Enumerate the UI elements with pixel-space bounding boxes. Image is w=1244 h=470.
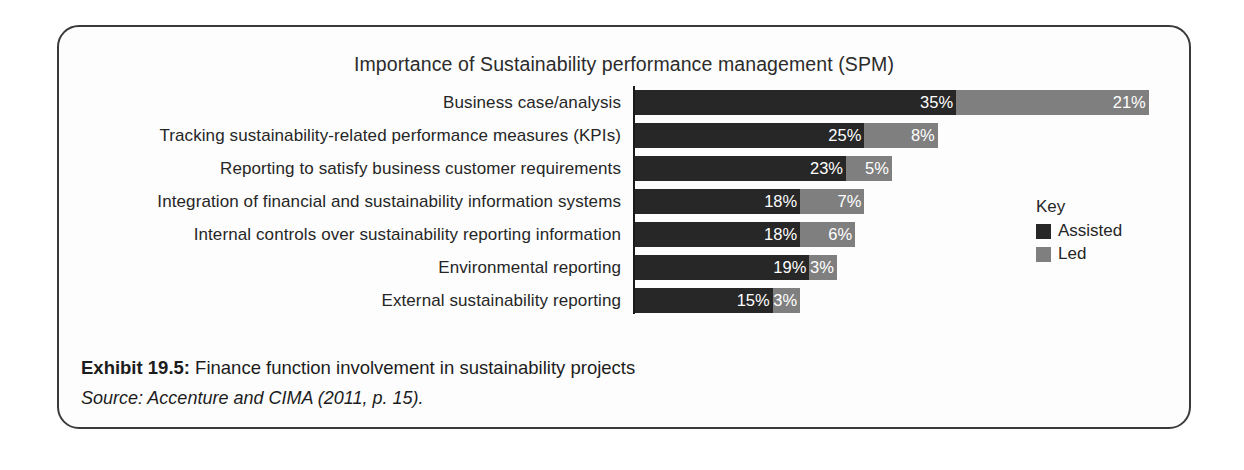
bar-value-label: 35% <box>920 93 956 112</box>
bar-value-label: 19% <box>773 258 809 277</box>
bar-value-label: 6% <box>828 225 855 244</box>
bar-segment-led: 3% <box>809 255 837 280</box>
stacked-bar: 25% 8% <box>635 123 938 148</box>
bar-segment-assisted: 18% <box>635 189 800 214</box>
bar-value-label: 18% <box>764 192 800 211</box>
bar-row: Tracking sustainability-related performa… <box>65 119 1185 152</box>
chart-legend: Key Assisted Led <box>1036 197 1186 264</box>
stacked-bar: 35% 21% <box>635 90 1149 115</box>
bar-row: Internal controls over sustainability re… <box>65 218 1185 251</box>
bar-row: Business case/analysis 35% 21% <box>65 86 1185 119</box>
stacked-bar: 19% 3% <box>635 255 837 280</box>
category-label: Integration of financial and sustainabil… <box>157 192 621 212</box>
legend-item-assisted: Assisted <box>1036 221 1186 241</box>
bar-row: Integration of financial and sustainabil… <box>65 185 1185 218</box>
bar-value-label: 5% <box>865 159 892 178</box>
bar-value-label: 8% <box>911 126 938 145</box>
bar-value-label: 3% <box>773 291 800 310</box>
figure-frame: Importance of Sustainability performance… <box>57 25 1191 429</box>
bar-value-label: 25% <box>828 126 864 145</box>
bar-segment-assisted: 23% <box>635 156 846 181</box>
bar-row: External sustainability reporting 15% 3% <box>65 284 1185 317</box>
bar-segment-assisted: 35% <box>635 90 956 115</box>
bar-segment-led: 7% <box>800 189 864 214</box>
bar-value-label: 3% <box>810 258 837 277</box>
bar-segment-led: 8% <box>864 123 937 148</box>
figure-caption: Exhibit 19.5: Finance function involveme… <box>81 357 635 379</box>
legend-label: Led <box>1058 244 1086 264</box>
category-label: External sustainability reporting <box>381 291 621 311</box>
bar-row: Reporting to satisfy business customer r… <box>65 152 1185 185</box>
bar-segment-assisted: 18% <box>635 222 800 247</box>
legend-item-led: Led <box>1036 244 1186 264</box>
legend-swatch-led <box>1036 247 1051 262</box>
category-label: Environmental reporting <box>438 258 621 278</box>
caption-exhibit-label: Exhibit 19.5: <box>81 357 190 378</box>
stacked-bar: 23% 5% <box>635 156 892 181</box>
chart-title: Importance of Sustainability performance… <box>59 53 1189 76</box>
bar-value-label: 15% <box>737 291 773 310</box>
bar-segment-assisted: 19% <box>635 255 809 280</box>
stacked-bar: 18% 6% <box>635 222 855 247</box>
legend-title: Key <box>1036 197 1186 217</box>
figure-source: Source: Accenture and CIMA (2011, p. 15)… <box>81 388 635 409</box>
chart-plot-area: Business case/analysis 35% 21% Tracking … <box>65 86 1185 316</box>
category-label: Internal controls over sustainability re… <box>194 225 621 245</box>
bar-value-label: 21% <box>1113 93 1149 112</box>
bar-value-label: 18% <box>764 225 800 244</box>
bar-value-label: 23% <box>810 159 846 178</box>
category-label: Reporting to satisfy business customer r… <box>220 159 621 179</box>
legend-swatch-assisted <box>1036 224 1051 239</box>
bar-segment-assisted: 25% <box>635 123 864 148</box>
bar-segment-led: 6% <box>800 222 855 247</box>
category-label: Business case/analysis <box>443 93 621 113</box>
stacked-bar: 18% 7% <box>635 189 864 214</box>
stacked-bar: 15% 3% <box>635 288 800 313</box>
caption-description: Finance function involvement in sustaina… <box>190 357 635 378</box>
bar-segment-assisted: 15% <box>635 288 773 313</box>
bar-segment-led: 3% <box>773 288 801 313</box>
bar-segment-led: 21% <box>956 90 1149 115</box>
bar-row: Environmental reporting 19% 3% <box>65 251 1185 284</box>
bar-segment-led: 5% <box>846 156 892 181</box>
legend-label: Assisted <box>1058 221 1122 241</box>
category-label: Tracking sustainability-related performa… <box>159 126 621 146</box>
figure-caption-block: Exhibit 19.5: Finance function involveme… <box>81 357 635 409</box>
bar-value-label: 7% <box>838 192 865 211</box>
